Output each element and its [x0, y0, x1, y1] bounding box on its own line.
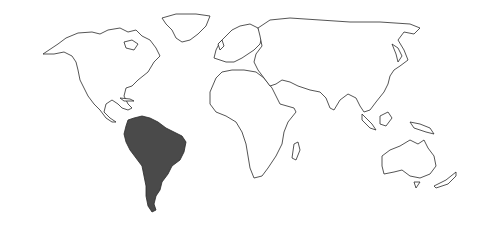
region-new-guinea — [410, 122, 434, 134]
region-north-america — [43, 28, 160, 122]
region-madagascar — [292, 142, 300, 160]
region-asia — [254, 18, 420, 112]
world-map — [0, 0, 487, 226]
region-south-america — [124, 116, 186, 212]
region-tasmania — [414, 182, 420, 188]
region-indonesia — [362, 114, 376, 130]
region-greenland — [162, 14, 210, 42]
region-africa — [210, 70, 296, 178]
region-borneo — [380, 112, 392, 126]
region-australia — [382, 140, 436, 178]
region-new-zealand — [434, 172, 456, 188]
